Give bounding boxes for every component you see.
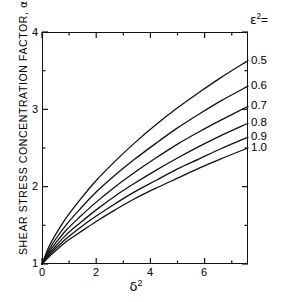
legend-item-2: 0.7: [251, 100, 267, 112]
y-axis-title-symbol: α: [17, 0, 29, 8]
xtick-label-0: 0: [34, 267, 50, 278]
legend-item-0: 0.5: [251, 55, 267, 67]
xtick-label-6: 6: [196, 267, 212, 278]
legend-item-5: 1.0: [251, 142, 267, 154]
x-axis-title-symbol: δ: [130, 279, 138, 294]
legend-equals: =: [261, 13, 268, 27]
xtick-label-4: 4: [142, 267, 158, 278]
legend-title: ε2=: [250, 12, 268, 27]
legend-item-3: 0.8: [251, 117, 267, 129]
chart-canvas: [0, 0, 287, 302]
data-curves: [42, 61, 248, 264]
figure-shear-stress-chart: 4 3 2 1 0 2 4 6 SHEAR STRESS CONCENTRATI…: [0, 0, 287, 302]
curve-0.7: [42, 106, 248, 264]
legend-item-1: 0.6: [251, 80, 267, 92]
curve-0.9: [42, 137, 248, 264]
xtick-label-2: 2: [88, 267, 104, 278]
y-axis-title-text: SHEAR STRESS CONCENTRATION FACTOR,: [17, 12, 29, 255]
x-axis-title: δ2: [96, 278, 176, 294]
y-axis-title: SHEAR STRESS CONCENTRATION FACTOR, α: [17, 25, 29, 255]
x-axis-title-exponent: 2: [138, 278, 143, 288]
